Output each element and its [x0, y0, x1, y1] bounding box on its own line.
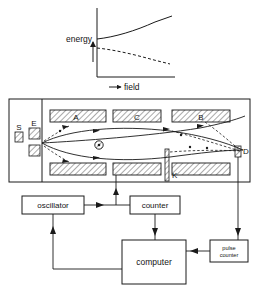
computer-label: computer: [136, 257, 172, 267]
counter-block[interactable]: counter: [130, 196, 180, 214]
schematic-canvas: energy field S E A C: [0, 0, 257, 298]
trajectory-node-d: [206, 147, 208, 149]
collimator-lower-jaw: [29, 145, 40, 156]
computer-block[interactable]: computer: [122, 240, 186, 284]
collimator-label: E: [31, 119, 36, 128]
magnet-b-lower-pole: [172, 163, 230, 175]
pulse-counter-label-line1: pulse: [222, 245, 235, 251]
detector-label: D: [243, 147, 249, 156]
counter-label: counter: [142, 201, 169, 210]
oscillator-label: oscillator: [37, 201, 69, 210]
magnet-a-lower-pole: [50, 163, 106, 175]
graph-y-axis-label: energy: [66, 34, 93, 44]
magnet-a-label: A: [73, 113, 79, 122]
magnet-c-lower-pole: [113, 163, 161, 175]
trajectory-node-b: [180, 134, 182, 136]
figure-root: energy field S E A C: [0, 0, 257, 298]
oscillator-block[interactable]: oscillator: [22, 196, 84, 214]
source-oven-icon: [15, 132, 23, 142]
pulse-counter-block[interactable]: pulse counter: [210, 240, 248, 262]
rf-loop-center-dot: [98, 144, 101, 147]
pulse-counter-label-line2: counter: [220, 252, 239, 258]
trajectory-node-c: [189, 146, 191, 148]
magnet-c-label: C: [134, 113, 140, 122]
trajectory-node-a: [59, 130, 61, 132]
stop-wire-bar: [165, 149, 169, 181]
magnet-b-label: B: [198, 113, 203, 122]
stop-wire-label: K: [172, 171, 178, 180]
source-label: S: [16, 123, 21, 132]
collimator-upper-jaw: [29, 128, 40, 139]
graph-x-axis-label: field: [124, 82, 140, 92]
pulse-counter-box[interactable]: [210, 240, 248, 262]
rf-loop-icon: [95, 141, 103, 149]
